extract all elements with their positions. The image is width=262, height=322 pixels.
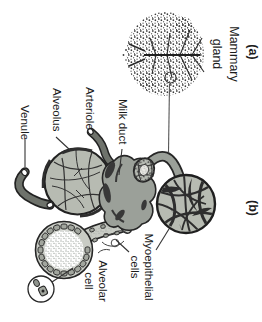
alveolar-cell-label: Alveolar cell: [82, 249, 109, 313]
mammary-gland-label-line1: Mammary: [226, 12, 243, 96]
alveolus-leader: [56, 137, 70, 150]
alveolus-label: Alveolus: [50, 88, 63, 131]
myoepithelial-leader-1: [156, 229, 169, 250]
panel-b-tag: (b): [246, 186, 259, 230]
rotated-stage: (a) Mammary gland (b) Milk duct Arteriol…: [0, 0, 262, 322]
mammary-gland-label: Mammary gland: [209, 12, 242, 96]
milk-duct-label: Milk duct: [116, 99, 129, 144]
myoepithelial-cells-label-line1: Myoepithelial: [142, 221, 156, 313]
venule-label: Venule: [18, 105, 31, 140]
myoepithelial-cells-label: Myoepithelial cells: [128, 221, 155, 313]
mammary-gland-label-line2: gland: [209, 12, 226, 96]
mammary-gland-tree: [123, 12, 204, 152]
arteriole-label: Arteriole: [83, 87, 96, 130]
lumen: [45, 231, 84, 270]
myoepithelial-cells-label-line2: cells: [128, 221, 142, 313]
alveolar-cell-label-line2: cell: [82, 249, 96, 313]
myoepithelial-ball: [157, 175, 215, 233]
alveolar-cell-label-line1: Alveolar: [96, 249, 110, 313]
figure-viewport: (a) Mammary gland (b) Milk duct Arteriol…: [0, 0, 262, 322]
panel-a-tag: (a): [246, 30, 259, 74]
